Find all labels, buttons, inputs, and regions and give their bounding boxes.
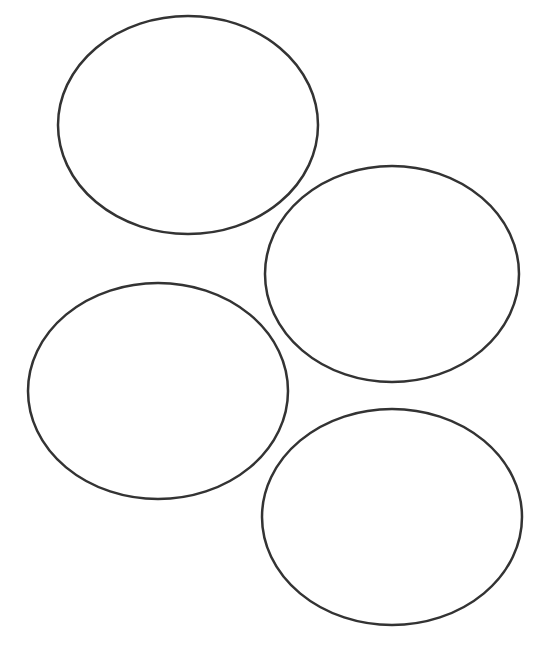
ellipse-top (58, 16, 318, 234)
ellipse-right (265, 166, 519, 382)
diagram-canvas (0, 0, 550, 654)
ellipse-bottom-right (262, 409, 522, 625)
ellipse-left (28, 283, 288, 499)
